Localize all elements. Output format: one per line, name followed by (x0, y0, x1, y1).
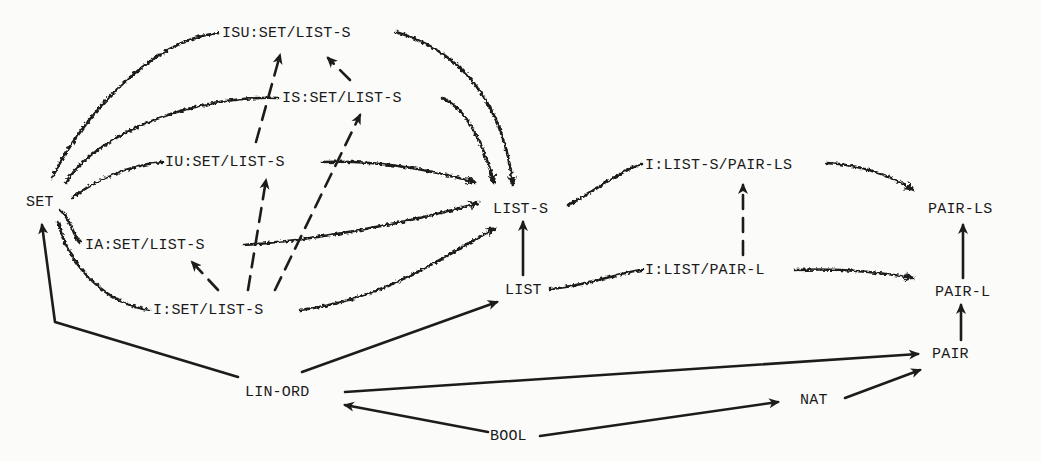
node-ia-set-list-s: IA:SET/LIST-S (85, 238, 205, 253)
edge-iu-lists (322, 162, 475, 182)
node-i-set-list-s: I:SET/LIST-S (153, 303, 263, 318)
edge-ilp-pairl (795, 269, 913, 278)
edge-ia-lists (244, 203, 478, 245)
node-isu-set-list-s: ISU:SET/LIST-S (222, 26, 351, 41)
node-list-s: LIST-S (493, 202, 548, 217)
node-bool: BOOL (490, 429, 527, 444)
edge-is-lists (442, 98, 494, 183)
node-i-list-pair-l: I:LIST/PAIR-L (645, 263, 765, 278)
edges-layer (0, 0, 1041, 461)
node-is-set-list-s: IS:SET/LIST-S (282, 91, 402, 106)
edge-bool-linord (345, 405, 488, 432)
node-nat: NAT (800, 393, 828, 408)
node-lin-ord: LIN-ORD (245, 385, 309, 400)
edge-lists-ilsp (568, 164, 642, 205)
node-iu-set-list-s: IU:SET/LIST-S (165, 155, 285, 170)
edge-set-iu (72, 162, 162, 198)
edge-isu-lists (396, 32, 513, 185)
edge-nat-pair (845, 370, 920, 398)
node-i-list-s-pair-ls: I:LIST-S/PAIR-LS (645, 158, 792, 173)
edge-set-i (58, 222, 150, 310)
edge-i-ia (192, 262, 218, 290)
node-set: SET (26, 195, 54, 210)
edge-i-lists (300, 228, 495, 310)
node-pair-ls: PAIR-LS (928, 202, 992, 217)
node-list: LIST (505, 283, 542, 298)
edge-bool-nat (540, 402, 778, 436)
edge-linord-list (302, 302, 497, 372)
edge-list-ilp (550, 270, 642, 289)
diagram-canvas: ISU:SET/LIST-S IS:SET/LIST-S IU:SET/LIST… (0, 0, 1041, 461)
node-pair: PAIR (932, 347, 969, 362)
edge-ilsp-pairls (827, 163, 913, 190)
edge-is-isu (328, 58, 350, 80)
edge-i-iu (248, 180, 266, 290)
edge-linord-pair (345, 354, 918, 392)
node-pair-l: PAIR-L (935, 285, 990, 300)
edge-i-is (275, 115, 360, 290)
